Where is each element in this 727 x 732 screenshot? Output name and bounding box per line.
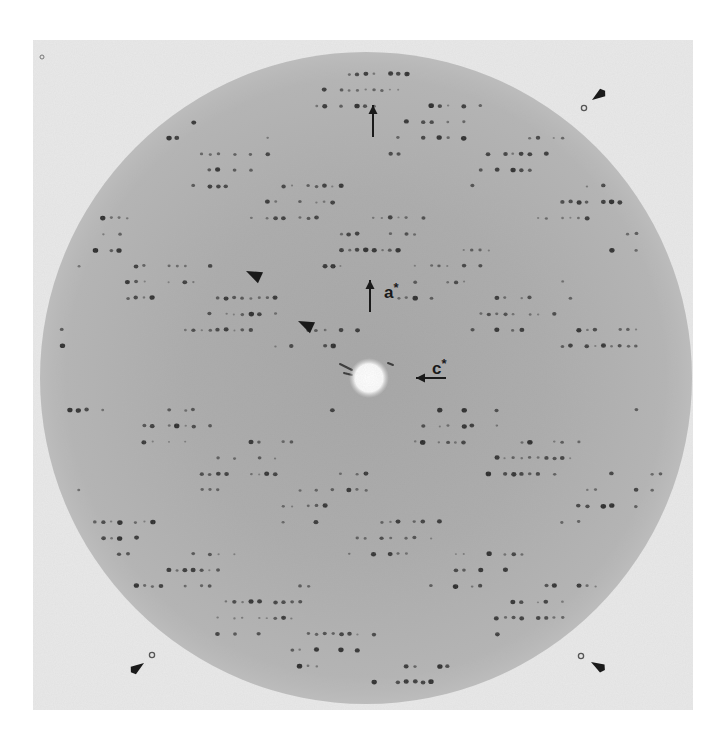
c-star-label: c* <box>432 360 447 377</box>
c-star-superscript: * <box>441 356 446 371</box>
a-star-label: a* <box>384 284 399 301</box>
diffraction-pattern <box>33 40 693 710</box>
diffraction-image-panel <box>33 40 693 710</box>
film-grain <box>33 40 693 710</box>
a-star-superscript: * <box>393 280 398 295</box>
